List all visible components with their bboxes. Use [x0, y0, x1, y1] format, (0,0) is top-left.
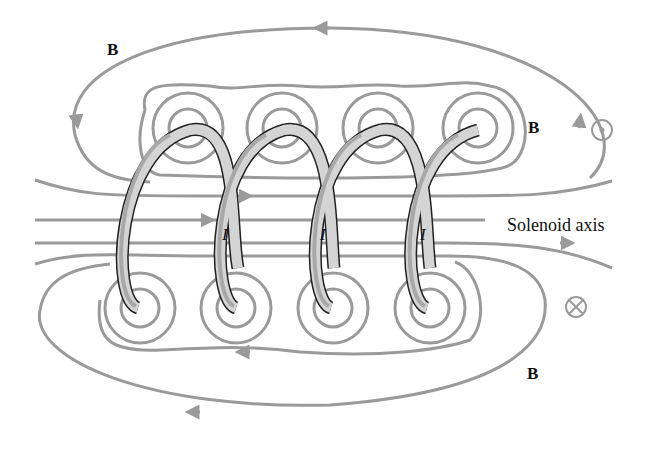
- field-label-b-top-left: B: [107, 40, 118, 60]
- solenoid-axis-label: Solenoid axis: [507, 215, 605, 236]
- current-label-2: I: [320, 225, 326, 245]
- field-label-b-bottom: B: [527, 364, 538, 384]
- into-page-symbol: [566, 297, 586, 317]
- field-label-b-top-right: B: [528, 118, 539, 138]
- current-label-3: I: [420, 225, 426, 245]
- current-label-1: I: [222, 225, 228, 245]
